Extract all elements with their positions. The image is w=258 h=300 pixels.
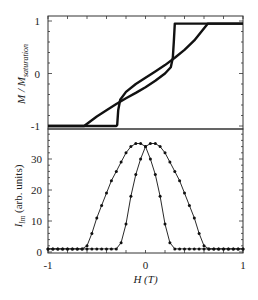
hysteresis-curves [48,24,243,126]
data-point-marker [188,247,191,250]
data-point-marker [76,247,79,250]
data-point-marker [149,158,152,161]
data-point-marker [100,204,103,207]
top-axis-ticks [48,16,243,126]
data-point-marker [71,247,74,250]
xtick-label-neg1: -1 [43,259,52,271]
data-point-marker [193,247,196,250]
data-point-marker [232,247,235,250]
data-point-marker [120,241,123,244]
data-point-marker [203,244,206,247]
data-point-marker [237,247,240,250]
data-point-marker [207,247,210,250]
data-point-marker [149,142,152,145]
data-point-marker [242,247,245,250]
data-point-marker [129,195,132,198]
hysteresis-branch-1 [48,24,243,126]
data-point-marker [183,192,186,195]
data-point-marker [144,145,147,148]
xtick-label-1: 1 [240,259,246,271]
xtick-label-0: 0 [143,259,149,271]
data-point-marker [90,232,93,235]
bottom-ytick-label-10: 10 [31,215,43,227]
data-point-marker [105,247,108,250]
data-point-marker [66,247,69,250]
data-point-marker [95,216,98,219]
data-point-marker [134,173,137,176]
data-point-marker [164,223,167,226]
x-axis-label: H (T) [132,273,157,286]
data-point-marker [217,247,220,250]
data-point-marker [198,232,201,235]
data-point-marker [164,151,167,154]
data-point-marker [95,247,98,250]
data-point-marker [212,247,215,250]
data-point-marker [178,247,181,250]
data-point-marker [115,247,118,250]
data-point-marker [100,247,103,250]
data-point-marker [110,247,113,250]
bottom-ytick-label-0: 0 [37,246,43,258]
data-point-marker [139,142,142,145]
data-point-marker [173,170,176,173]
data-point-marker [120,161,123,164]
data-point-marker [168,241,171,244]
data-point-marker [198,247,201,250]
data-point-marker [115,170,118,173]
top-plot-frame [48,16,243,129]
data-point-marker [178,179,181,182]
data-point-marker [203,247,206,250]
bottom-panel: 30 20 10 0 Ilm (arb. units) -1 0 1 H (T) [12,129,246,286]
data-point-marker [86,247,89,250]
figure: 1 0 -1 M / Msaturation 30 20 10 0 Ilm (a… [0,0,258,300]
top-ytick-label-1: 1 [35,15,41,27]
bottom-y-axis-label: Ilm (arb. units) [12,164,27,228]
data-point-marker [222,247,225,250]
top-y-axis-label: M / Msaturation [15,44,30,105]
data-point-marker [105,192,108,195]
top-panel: 1 0 -1 M / Msaturation [15,15,243,132]
data-point-marker [81,247,84,250]
intensity-curves [47,142,245,250]
data-point-marker [125,223,128,226]
data-point-marker [125,151,128,154]
bottom-ytick-label-20: 20 [31,184,43,196]
data-point-marker [110,179,113,182]
data-point-marker [227,247,230,250]
data-point-marker [56,247,59,250]
data-point-marker [61,247,64,250]
data-point-marker [154,142,157,145]
bottom-axis-ticks [48,134,243,253]
data-point-marker [159,195,162,198]
data-point-marker [86,244,89,247]
bottom-ytick-label-30: 30 [31,153,43,165]
data-point-marker [173,247,176,250]
data-point-marker [47,247,50,250]
data-point-marker [193,216,196,219]
data-point-marker [139,158,142,161]
top-ytick-label-0: 0 [35,68,41,80]
intensity-series-2 [47,142,245,250]
top-ytick-label-neg1: -1 [31,120,40,132]
data-point-marker [90,247,93,250]
data-point-marker [168,161,171,164]
data-point-marker [159,145,162,148]
data-point-marker [188,204,191,207]
intensity-series-1 [47,142,245,250]
data-point-marker [154,173,157,176]
data-point-marker [51,247,54,250]
data-point-marker [129,145,132,148]
hysteresis-branch-2 [48,24,243,126]
data-point-marker [183,247,186,250]
data-point-marker [134,142,137,145]
